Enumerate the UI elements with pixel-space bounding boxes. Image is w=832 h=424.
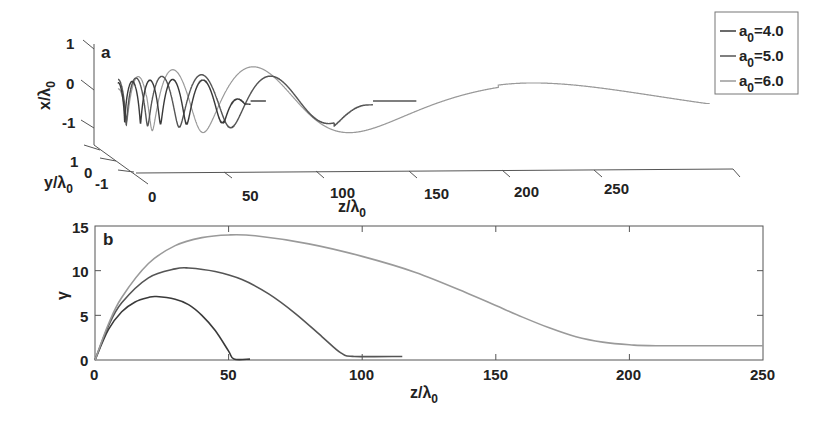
y-tick-label: 1	[70, 153, 78, 170]
panel-b: 0 50 100 150 200 250 0 5 10 15 γ z/λ0 b	[54, 219, 775, 406]
x-tick-label: -1	[62, 114, 75, 131]
y-tick-label: 0	[84, 164, 92, 181]
panel-b-x-axis-label: z/λ0	[410, 384, 438, 406]
y-tick-label: 5	[80, 308, 88, 325]
tick	[81, 120, 94, 128]
panel-b-frame	[95, 226, 763, 360]
tick	[224, 172, 232, 178]
svg-text:x/λ0: x/λ0	[36, 81, 58, 110]
tick	[83, 40, 94, 49]
panel-a: 1 0 -1 x/λ0 a 1 0 -1 y/λ0 0 50 100 150 2…	[36, 12, 798, 220]
x-tick-label: 1	[66, 35, 74, 52]
x-tick-label: 0	[66, 75, 74, 92]
x-tick-label: 250	[750, 366, 775, 383]
y-tick-label: 10	[72, 263, 89, 280]
z-tick-label: 0	[148, 188, 156, 205]
y-tick-label: 0	[80, 352, 88, 369]
panel-a-label: a	[101, 43, 111, 62]
z-tick-label: 200	[514, 183, 539, 200]
panel-b-curves	[95, 235, 763, 360]
panel-a-z-axis	[136, 169, 733, 173]
tick	[733, 169, 740, 177]
x-tick-label: 0	[90, 366, 98, 383]
z-tick-label: 150	[424, 185, 449, 202]
panel-a-z-axis-label: z/λ0	[338, 198, 366, 220]
x-tick-label: 50	[220, 366, 237, 383]
tick	[502, 170, 510, 177]
figure: 1 0 -1 x/λ0 a 1 0 -1 y/λ0 0 50 100 150 2…	[0, 0, 832, 424]
trajectory-a0-6	[118, 67, 710, 133]
y-tick-label: -1	[95, 175, 108, 192]
x-tick-label: 200	[616, 366, 641, 383]
gamma-curve-a0-5.0	[95, 268, 402, 360]
panel-b-ticks	[95, 226, 763, 360]
gamma-curve-a0-6.0	[95, 235, 763, 360]
z-tick-label: 50	[242, 187, 259, 204]
tick	[594, 170, 602, 177]
y-tick-label: 15	[72, 219, 89, 236]
x-tick-label: 100	[349, 366, 374, 383]
z-tick-label: 250	[604, 180, 629, 197]
panel-b-label: b	[103, 230, 113, 249]
tick	[118, 170, 134, 172]
panel-a-x-axis-label: x/λ0	[36, 81, 58, 110]
legend: a0=4.0 a0=5.0 a0=6.0	[715, 12, 798, 95]
gamma-curve-a0-4.0	[95, 296, 250, 360]
x-tick-label: 150	[483, 366, 508, 383]
tick	[409, 171, 417, 178]
tick	[81, 80, 94, 90]
panel-a-y-axis-label: y/λ0	[44, 174, 73, 196]
panel-b-y-axis-label: γ	[54, 291, 71, 300]
